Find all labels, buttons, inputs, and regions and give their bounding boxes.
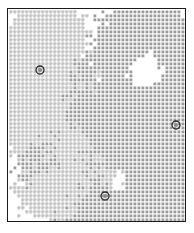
lattice-surface bbox=[8, 9, 185, 221]
figure-root bbox=[0, 0, 194, 233]
lattice-canvas bbox=[8, 9, 185, 221]
plot-frame bbox=[7, 8, 186, 222]
